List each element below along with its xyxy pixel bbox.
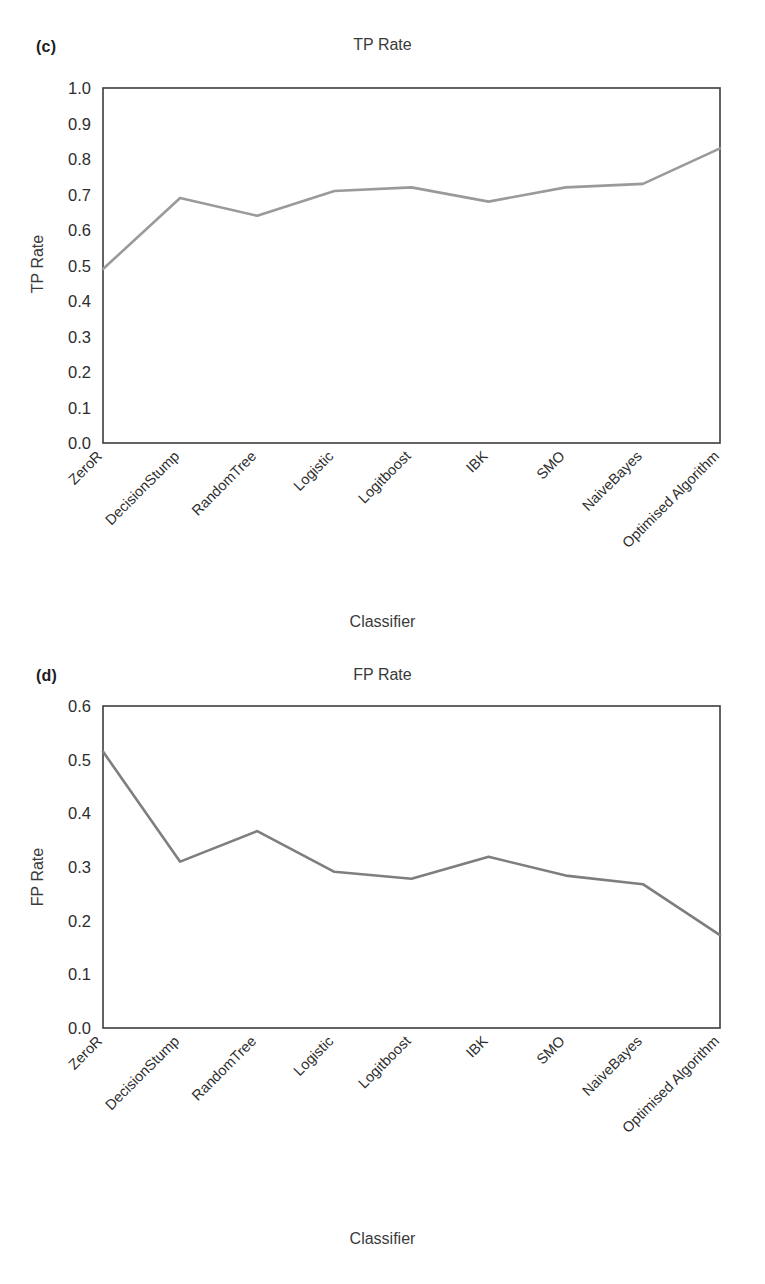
x-category-label: Logitboost (355, 1033, 414, 1092)
y-tick-label: 0.8 (68, 150, 91, 168)
x-category-label: NaiveBayes (579, 448, 645, 514)
chart-panel-fp-rate: (d) FP Rate FP Rate 0.60.50.40.30.20.10.… (0, 650, 765, 1284)
x-category-label: SMO (533, 448, 568, 483)
y-tick-label: 0.4 (68, 804, 91, 822)
x-category-label: RandomTree (189, 448, 260, 519)
y-tick-label: 0.1 (68, 965, 91, 983)
y-tick-label: 0.3 (68, 328, 91, 346)
y-tick-label: 0.3 (68, 858, 91, 876)
x-category-label: Logistic (290, 448, 336, 494)
plot-area-tp-rate: 1.00.90.80.70.60.50.40.30.20.10.0 ZeroRD… (0, 0, 765, 600)
x-category-label: ZeroR (65, 448, 105, 488)
y-tick-label: 0.9 (68, 115, 91, 133)
y-tick-label: 0.2 (68, 363, 91, 381)
y-tick-label: 0.0 (68, 434, 91, 452)
x-category-labels-fp-rate: ZeroRDecisionStumpRandomTreeLogisticLogi… (65, 1033, 722, 1136)
x-category-label: IBK (463, 448, 491, 476)
axis-frame-fp-rate (103, 706, 720, 1028)
x-category-label: DecisionStump (102, 1033, 182, 1113)
x-axis-title-fp-rate: Classifier (0, 1230, 765, 1248)
y-tick-label: 0.7 (68, 186, 91, 204)
plot-area-fp-rate: 0.60.50.40.30.20.10.0 ZeroRDecisionStump… (0, 650, 765, 1250)
y-tick-label: 0.1 (68, 399, 91, 417)
x-category-label: Logistic (290, 1033, 336, 1079)
y-tick-label: 1.0 (68, 79, 91, 97)
x-category-label: RandomTree (189, 1033, 260, 1104)
y-tick-label: 0.0 (68, 1019, 91, 1037)
axis-frame-tp-rate (103, 88, 720, 443)
x-category-label: DecisionStump (102, 448, 182, 528)
y-tick-labels-tp-rate: 1.00.90.80.70.60.50.40.30.20.10.0 (68, 79, 91, 452)
y-tick-label: 0.6 (68, 221, 91, 239)
y-tick-label: 0.2 (68, 912, 91, 930)
y-tick-labels-fp-rate: 0.60.50.40.30.20.10.0 (68, 697, 91, 1037)
x-category-label: IBK (463, 1033, 491, 1061)
series-line-tp-rate (103, 148, 720, 269)
series-line-fp-rate (103, 752, 720, 936)
y-tick-label: 0.5 (68, 257, 91, 275)
chart-panel-tp-rate: (c) TP Rate TP Rate 1.00.90.80.70.60.50.… (0, 0, 765, 650)
x-category-labels-tp-rate: ZeroRDecisionStumpRandomTreeLogisticLogi… (65, 448, 722, 551)
x-category-label: NaiveBayes (579, 1033, 645, 1099)
x-category-label: ZeroR (65, 1033, 105, 1073)
y-tick-label: 0.4 (68, 292, 91, 310)
x-category-label: Logitboost (355, 448, 414, 507)
x-axis-title-tp-rate: Classifier (0, 613, 765, 631)
y-tick-label: 0.6 (68, 697, 91, 715)
x-category-label: SMO (533, 1033, 568, 1068)
y-tick-label: 0.5 (68, 751, 91, 769)
